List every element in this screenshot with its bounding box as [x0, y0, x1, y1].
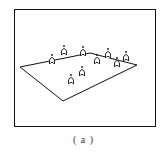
standing-figure [62, 45, 67, 55]
standing-figure [81, 46, 86, 56]
plane-outline [20, 53, 137, 101]
standing-figure [69, 74, 74, 84]
figure-caption: ( a ) [0, 134, 167, 145]
plane-with-figures-illustration [0, 0, 167, 153]
standing-figure [106, 48, 111, 58]
standing-figure [124, 51, 129, 61]
standing-figure [115, 57, 120, 67]
standing-figure [50, 54, 55, 64]
standing-figure [80, 66, 85, 76]
